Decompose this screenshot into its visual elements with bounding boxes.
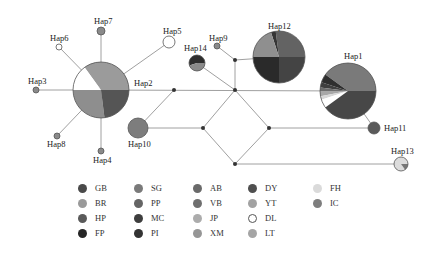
haplotype-node-hap10 — [128, 118, 148, 138]
haplotype-label: Hap14 — [184, 43, 207, 53]
haplotype-label: Hap2 — [134, 78, 152, 88]
legend-item-ab: AB — [193, 181, 222, 195]
network-edge — [203, 128, 235, 164]
haplotype-label: Hap5 — [163, 26, 181, 36]
legend-item-dy: DY — [248, 181, 277, 195]
median-vector-node — [267, 126, 271, 130]
pie-slice-hp — [101, 90, 129, 118]
legend-swatch-icon — [248, 199, 257, 208]
haplotype-node-hap14 — [189, 55, 205, 71]
haplotype-label: Hap7 — [94, 16, 112, 26]
legend-swatch-icon — [134, 214, 143, 223]
median-vector-node — [201, 126, 205, 130]
median-vector-node — [233, 88, 237, 92]
legend-item-gb: GB — [78, 181, 107, 195]
legend-item-ic: IC — [313, 196, 339, 210]
haplotype-label: Hap1 — [344, 51, 362, 61]
haplotype-node-hap3 — [33, 87, 39, 93]
legend-swatch-icon — [134, 199, 143, 208]
legend-item-vb: VB — [193, 196, 222, 210]
legend-swatch-icon — [193, 184, 202, 193]
legend-item-fh: FH — [313, 181, 341, 195]
legend-swatch-icon — [248, 214, 257, 223]
haplotype-node-hap4 — [98, 148, 104, 154]
haplotype-node-hap2 — [73, 62, 129, 118]
haplotype-node-hap1 — [320, 63, 376, 119]
median-vectors — [172, 58, 271, 166]
legend-swatch-icon — [134, 229, 143, 238]
haplotype-label: Hap3 — [28, 76, 46, 86]
network-edge — [217, 46, 235, 60]
network-edge — [235, 128, 269, 164]
haplotype-label: Hap10 — [128, 139, 151, 149]
legend-swatch-icon — [313, 199, 322, 208]
legend-item-hp: HP — [78, 211, 106, 225]
legend-swatch-icon — [78, 214, 87, 223]
legend-item-mc: MC — [134, 211, 164, 225]
legend-item-sg: SG — [134, 181, 162, 195]
haplotype-node-hap13 — [394, 157, 408, 171]
legend-item-lt: LT — [248, 226, 275, 240]
haplotype-node-hap9 — [214, 43, 220, 49]
population-legend: GB BR HP FP SG PP MC PI AB VB JP XM DY Y… — [78, 181, 378, 247]
legend-swatch-icon — [78, 184, 87, 193]
legend-item-pi: PI — [134, 226, 159, 240]
haplotype-node-hap11 — [368, 122, 380, 134]
median-vector-node — [172, 88, 176, 92]
haplotype-label: Hap4 — [93, 155, 112, 165]
legend-swatch-icon — [134, 184, 143, 193]
legend-item-yt: YT — [248, 196, 276, 210]
network-edge — [235, 90, 269, 128]
haplotype-node-hap6 — [56, 44, 62, 50]
legend-item-dl: DL — [248, 211, 276, 225]
legend-item-pp: PP — [134, 196, 160, 210]
legend-swatch-icon — [78, 199, 87, 208]
haplotype-label: Hap11 — [384, 123, 406, 133]
legend-swatch-icon — [193, 214, 202, 223]
haplotype-label: Hap12 — [268, 21, 291, 31]
legend-swatch-icon — [193, 229, 202, 238]
pie-slice-sg — [276, 31, 305, 57]
haplotype-node-hap12 — [253, 31, 305, 83]
network-edge — [203, 90, 235, 128]
haplotype-label: Hap13 — [391, 146, 414, 156]
legend-item-fp: FP — [78, 226, 104, 240]
haplotype-label: Hap9 — [209, 33, 227, 43]
legend-swatch-icon — [313, 184, 322, 193]
median-vector-node — [233, 58, 237, 62]
legend-item-jp: JP — [193, 211, 218, 225]
haplotype-node-hap5 — [163, 36, 175, 48]
network-edge — [101, 90, 348, 91]
legend-swatch-icon — [78, 229, 87, 238]
legend-swatch-icon — [193, 199, 202, 208]
haplotype-label: Hap6 — [50, 33, 68, 43]
haplotype-node-hap7 — [97, 27, 105, 35]
legend-item-br: BR — [78, 196, 106, 210]
legend-swatch-icon — [248, 229, 257, 238]
legend-swatch-icon — [248, 184, 257, 193]
legend-item-xm: XM — [193, 226, 224, 240]
haplotype-label: Hap8 — [47, 139, 65, 149]
median-vector-node — [233, 162, 237, 166]
